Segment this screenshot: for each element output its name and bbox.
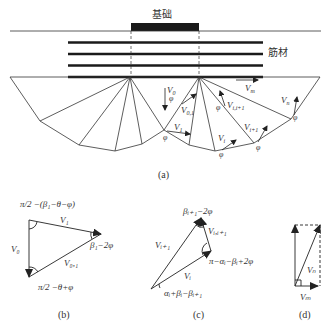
v01-label-b: V₀,₁ [64, 258, 78, 268]
svg-text:φ: φ [169, 94, 174, 103]
angle-top-b: π/2 −(β₁−θ−φ) [20, 199, 75, 209]
v1-label-b: V₁ [60, 215, 69, 225]
angle-bottom-b: π/2 −θ+φ [38, 282, 73, 292]
svg-text:φ: φ [163, 133, 168, 142]
vn-label-d: Vₙ [307, 265, 317, 275]
svg-text:φ: φ [219, 150, 224, 159]
v0-label-b: V₀ [11, 244, 20, 254]
vii1-label-c: Vᵢ,ᵢ₊₁ [208, 226, 227, 236]
svg-text:Vi: Vi [218, 133, 226, 144]
vi1-arrow [258, 126, 267, 142]
reinforcement-layers [68, 43, 263, 78]
angle-top-c: βᵢ₊₁−2φ [182, 206, 213, 216]
velocity-labels: V0 V0,1 V1 Vm Vi,i+1 Vi Vi+1 Vn [167, 83, 290, 144]
vm-label-d: Vₘ [300, 292, 312, 302]
caption-d: (d) [299, 309, 311, 321]
svg-text:φ: φ [216, 103, 221, 112]
angle-right-c: π−αᵢ−βᵢ+2φ [209, 256, 253, 266]
svg-text:V0,1: V0,1 [181, 105, 194, 116]
angle-right-b: β₁−2φ [89, 240, 113, 250]
svg-text:φ: φ [256, 143, 261, 152]
bearing-capacity-mechanism-figure: 基础 筋材 [0, 0, 330, 335]
vii1-arrow [220, 91, 225, 106]
svg-text:V1: V1 [174, 122, 183, 133]
svg-text:Vm: Vm [245, 83, 256, 94]
svg-text:φ: φ [293, 113, 298, 122]
caption-b: (b) [58, 309, 70, 321]
footing-label: 基础 [152, 8, 172, 20]
reinforcement-label: 筋材 [268, 46, 288, 58]
svg-text:Vi,i+1: Vi,i+1 [227, 100, 244, 111]
angle-bottom-c: αᵢ+βᵢ−βᵢ₊₁ [164, 288, 202, 298]
diagram-b: π/2 −(β₁−θ−φ) V₁ β₁−2φ V₀ V₀,₁ π/2 −θ+φ … [11, 199, 113, 321]
svg-text:Vn: Vn [281, 95, 290, 106]
diagram-c: βᵢ₊₁−2φ Vᵢ₊₁ Vᵢ,ᵢ₊₁ π−αᵢ−βᵢ+2φ Vᵢ αᵢ+βᵢ−… [151, 206, 253, 321]
footing-block [131, 23, 199, 31]
caption-c: (c) [193, 309, 204, 321]
caption-a: (a) [158, 169, 169, 181]
diagram-a: 基础 筋材 [10, 8, 321, 181]
svg-text:Vi+1: Vi+1 [244, 122, 258, 133]
vi-label-c: Vᵢ [184, 271, 191, 281]
vi1-label-c: Vᵢ₊₁ [155, 240, 170, 250]
diagram-d: Vₙ Vₘ (d) [295, 225, 320, 321]
